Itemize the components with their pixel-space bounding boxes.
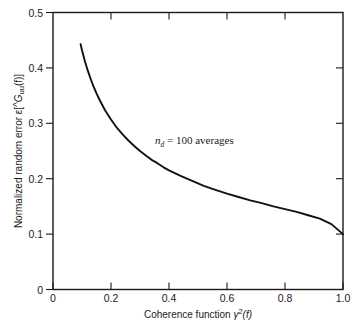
annotation-equals: = 100 averages	[167, 134, 234, 146]
x-tick-label: 0.4	[162, 292, 177, 304]
y-axis-title-sub: uu	[17, 86, 26, 94]
y-tick-label: 0.5	[28, 7, 43, 19]
x-axis-title: Coherence function γ2(f)	[144, 307, 252, 320]
x-tick-label: 0	[50, 292, 56, 304]
y-tick-label: 0.4	[28, 62, 43, 74]
x-tick-label: 0.2	[104, 292, 119, 304]
y-tick-label: 0	[37, 284, 43, 296]
chart-background	[0, 0, 359, 327]
y-axis-title: Normalized random error ε[^Guu(f)]	[12, 74, 26, 228]
y-axis-title-main: Normalized random error	[13, 116, 24, 228]
y-tick-label: 0.2	[28, 173, 43, 185]
x-tick-label: 0.6	[220, 292, 235, 304]
x-tick-label: 0.8	[278, 292, 293, 304]
y-tick-label: 0.1	[28, 228, 43, 240]
svg-text:Normalized random error ε[^Guu: Normalized random error ε[^Guu(f)]	[12, 74, 26, 228]
x-tick-label: 1.0	[336, 292, 351, 304]
x-axis-title-arg: (f)	[243, 309, 252, 320]
random-error-vs-coherence-chart: 0 0.2 0.4 0.6 0.8 1.0 0 0.1 0.2 0.3 0.4 …	[0, 0, 359, 327]
chart-page: 0 0.2 0.4 0.6 0.8 1.0 0 0.1 0.2 0.3 0.4 …	[0, 0, 359, 327]
y-tick-label: 0.3	[28, 117, 43, 129]
y-axis-title-arg: (f)]	[13, 74, 24, 86]
x-axis-title-main: Coherence function	[144, 309, 231, 320]
